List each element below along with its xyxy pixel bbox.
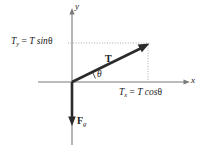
x-component-equals: = [130, 87, 135, 97]
x-component-expression: T cos [137, 87, 157, 97]
physics-vector-diagram: y x Ty = T sinθ Tx = T cosθ T θ Fg [0, 0, 204, 151]
x-component-label: Tx = T cosθ [119, 88, 162, 98]
diagram-canvas [0, 0, 204, 151]
weight-subscript: g [83, 120, 87, 128]
y-component-expression: T sin [29, 36, 48, 46]
y-component-angle: θ [48, 36, 53, 46]
y-component-equals: = [22, 36, 27, 46]
y-component-label: Ty = T sinθ [11, 37, 52, 47]
x-axis-label: x [191, 76, 195, 85]
x-component-subscript: x [124, 91, 127, 98]
weight-vector-arrow [68, 82, 76, 126]
y-component-subscript: y [16, 40, 19, 47]
angle-label: θ [97, 70, 102, 80]
x-component-angle: θ [157, 87, 162, 97]
y-axis-label: y [75, 2, 79, 11]
x-axis [38, 80, 190, 85]
weight-vector-label: Fg [77, 116, 87, 128]
tension-vector-label: T [105, 54, 112, 64]
